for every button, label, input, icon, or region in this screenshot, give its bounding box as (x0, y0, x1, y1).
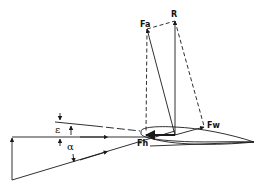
fw-label: Fw (207, 121, 220, 130)
fa-arrow (147, 29, 175, 135)
alpha-label: α (67, 141, 74, 152)
fh-label: Fh (137, 139, 148, 148)
airfoil-lower-surface (150, 138, 254, 144)
r-label: R (171, 10, 177, 19)
downwash-line (55, 122, 95, 126)
fa-label: Fa (140, 20, 150, 29)
epsilon-label: ε (55, 124, 60, 135)
airfoil-force-diagram: Fa R Fw Fh ε α (0, 0, 269, 195)
